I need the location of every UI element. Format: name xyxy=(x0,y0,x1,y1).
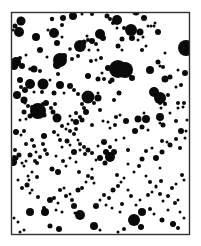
ink-dot xyxy=(154,22,157,25)
ink-dot xyxy=(14,27,24,37)
ink-dot xyxy=(86,174,90,178)
ink-dot xyxy=(94,42,98,46)
ink-dot xyxy=(179,83,183,87)
ink-dot xyxy=(159,179,163,183)
ink-dot xyxy=(112,15,122,25)
ink-dot xyxy=(19,85,23,89)
ink-dot xyxy=(13,148,17,152)
ink-dot xyxy=(99,229,102,232)
ink-dot xyxy=(68,47,72,51)
ink-dot xyxy=(185,130,188,133)
ink-dot xyxy=(105,14,110,19)
ink-dot xyxy=(142,36,145,39)
ink-dot xyxy=(56,72,60,76)
ink-dot xyxy=(53,102,57,106)
ink-dot xyxy=(184,137,187,140)
ink-dot xyxy=(80,186,84,190)
ink-dot xyxy=(103,161,108,166)
ink-dot xyxy=(129,35,135,41)
ink-dot xyxy=(90,222,98,230)
ink-dot xyxy=(162,76,169,83)
ink-dot xyxy=(35,175,39,179)
ink-dot xyxy=(47,29,50,32)
ink-dot xyxy=(63,92,66,95)
ink-dot xyxy=(69,115,72,118)
ink-dot xyxy=(85,181,88,184)
ink-dot xyxy=(178,146,182,150)
ink-dot xyxy=(71,119,74,122)
ink-dot xyxy=(50,17,54,21)
ink-dot xyxy=(119,211,122,214)
ink-dot xyxy=(110,78,115,83)
ink-dot xyxy=(139,199,142,202)
ink-dot xyxy=(74,127,78,131)
ink-dot xyxy=(38,69,42,73)
ink-dot xyxy=(144,149,148,153)
ink-dot xyxy=(35,151,38,154)
ink-dot xyxy=(141,15,147,21)
ink-dot xyxy=(95,95,102,102)
ink-dot xyxy=(153,25,156,28)
ink-dot xyxy=(75,210,85,220)
ink-dot xyxy=(120,37,125,42)
ink-dot xyxy=(133,171,136,174)
ink-dot xyxy=(143,112,146,115)
ink-dot xyxy=(78,142,82,146)
ink-dot xyxy=(169,112,172,115)
ink-dot xyxy=(23,229,26,232)
ink-dot xyxy=(123,177,126,180)
ink-dot xyxy=(159,167,162,170)
ink-dot xyxy=(97,155,103,161)
ink-dot xyxy=(98,108,102,112)
ink-dot xyxy=(55,169,61,175)
ink-dot xyxy=(65,128,68,131)
ink-dot xyxy=(122,227,126,231)
ink-dot xyxy=(23,165,26,168)
ink-dot xyxy=(41,208,49,216)
ink-dot xyxy=(33,91,36,94)
ink-dot xyxy=(186,119,189,122)
ink-dot xyxy=(52,130,56,134)
ink-dot xyxy=(76,188,81,193)
ink-dot xyxy=(70,57,74,61)
ink-dot xyxy=(61,36,64,39)
ink-dot xyxy=(120,181,123,184)
ink-dot xyxy=(30,138,34,142)
ink-dot xyxy=(105,65,111,71)
ink-dot xyxy=(99,199,102,202)
ink-dot xyxy=(20,134,23,137)
ink-dot xyxy=(120,202,124,206)
splatter-canvas xyxy=(0,0,201,246)
ink-dot xyxy=(111,188,116,193)
ink-dot xyxy=(93,182,96,185)
ink-dot xyxy=(93,203,99,209)
ink-dot xyxy=(77,139,80,142)
ink-dot xyxy=(99,56,103,60)
ink-dot xyxy=(132,128,138,134)
ink-dot xyxy=(25,118,28,121)
ink-dot xyxy=(108,145,112,149)
ink-dot xyxy=(114,115,118,119)
ink-dot xyxy=(88,49,91,52)
ink-dot xyxy=(17,77,23,83)
ink-dot xyxy=(35,161,39,165)
ink-dot xyxy=(146,66,154,74)
ink-dot xyxy=(162,200,165,203)
ink-dot xyxy=(24,142,28,146)
ink-dot xyxy=(22,87,28,93)
ink-dot xyxy=(64,194,68,198)
ink-dot xyxy=(177,107,180,110)
ink-dot xyxy=(150,25,153,28)
ink-dot xyxy=(22,129,26,133)
ink-dot xyxy=(58,188,62,192)
ink-dot xyxy=(180,173,184,177)
ink-dot xyxy=(19,231,22,234)
ink-dot xyxy=(151,191,154,194)
ink-dot xyxy=(31,66,38,73)
ink-dot xyxy=(138,208,146,216)
ink-dot xyxy=(128,214,140,226)
ink-dot xyxy=(28,179,31,182)
ink-dot xyxy=(61,211,64,214)
ink-dot xyxy=(72,88,76,92)
ink-dot xyxy=(140,48,144,52)
